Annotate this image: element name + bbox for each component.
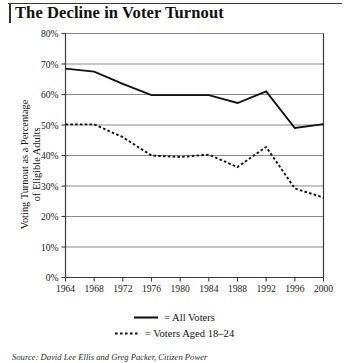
chart-plot-area: 0%10%20%30%40%50%60%70%80% 1964196819721… [0, 0, 348, 300]
x-tick-label: 1988 [228, 283, 247, 294]
y-tick-label: 20% [41, 211, 59, 222]
series-line-all-voters [66, 69, 324, 128]
source-note: Source: David Lee Ellis and Greg Packer,… [12, 352, 342, 362]
y-tick-label: 0% [46, 272, 59, 283]
x-tick-label: 1984 [199, 283, 218, 294]
y-tick-label: 70% [41, 59, 59, 70]
gridlines [66, 34, 324, 248]
x-tick-label: 1996 [285, 283, 304, 294]
y-tick-label: 50% [41, 120, 59, 131]
x-tick-label: 1964 [56, 283, 75, 294]
x-tick-label: 1976 [142, 283, 161, 294]
legend-label-all-voters: = All Voters [164, 312, 215, 323]
legend-swatch-dashed [114, 329, 140, 338]
legend-item-all-voters: = All Voters [0, 309, 348, 325]
y-tick-label: 30% [41, 181, 59, 192]
line-chart-svg: 0%10%20%30%40%50%60%70%80% 1964196819721… [0, 0, 348, 300]
legend-item-voters-18-24: = Voters Aged 18–24 [0, 325, 348, 341]
y-tick-label: 80% [41, 28, 59, 39]
series-line-voters-18-24 [66, 124, 324, 197]
x-tick-label: 1992 [257, 283, 276, 294]
x-axis-tick-labels: 1964196819721976198019841988199219962000 [56, 283, 333, 294]
source-note-text: David Lee Ellis and Greg Packer, Citizen… [38, 352, 207, 362]
x-tick-label: 2000 [314, 283, 333, 294]
legend-swatch-solid [133, 313, 159, 322]
y-axis-tick-labels: 0%10%20%30%40%50%60%70%80% [41, 28, 59, 283]
x-tick-label: 1968 [85, 283, 104, 294]
source-note-label: Source: [12, 352, 38, 362]
y-tick-label: 60% [41, 89, 59, 100]
y-tick-label: 10% [41, 242, 59, 253]
x-tick-label: 1980 [171, 283, 190, 294]
y-tick-label: 40% [41, 150, 59, 161]
legend-label-voters-18-24: = Voters Aged 18–24 [145, 328, 234, 339]
x-tick-label: 1972 [113, 283, 132, 294]
y-axis-title: Voting Turnout as a Percentage of Eligib… [19, 49, 44, 279]
chart-legend: = All Voters = Voters Aged 18–24 [0, 309, 348, 341]
